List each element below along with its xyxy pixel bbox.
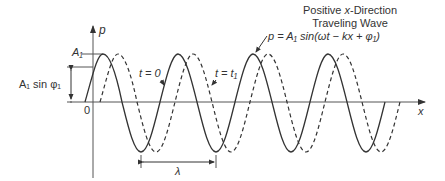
y-axis-label: p bbox=[99, 24, 106, 36]
wavelength-label: λ bbox=[175, 166, 180, 177]
x-axis-label: x bbox=[418, 106, 424, 117]
diagram-title: Positive x-Direction Traveling Wave bbox=[265, 4, 435, 30]
curve-t1-label: t = t₁ bbox=[215, 68, 237, 79]
origin-label: 0 bbox=[84, 105, 90, 116]
curve-t0-label: t = 0 bbox=[139, 68, 161, 79]
wave-equation: p = A₁ sin(ωt − kx + φ₁) bbox=[268, 31, 380, 42]
title-text-post: -Direction bbox=[350, 4, 397, 16]
amplitude-label: A₁ bbox=[72, 47, 83, 58]
offset-label: A₁ sin φ₁ bbox=[19, 79, 61, 90]
title-text: Positive bbox=[303, 4, 345, 16]
title-line2: Traveling Wave bbox=[265, 17, 435, 30]
